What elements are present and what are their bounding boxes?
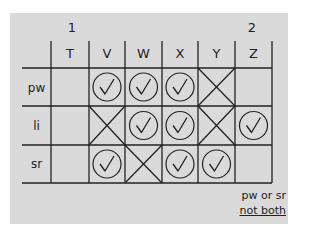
group-label-1: 1 <box>62 20 82 36</box>
check-icon <box>130 112 158 140</box>
check-icon <box>203 150 231 178</box>
note-line-2: not both <box>222 203 286 219</box>
check-icon <box>247 118 261 133</box>
check-icon <box>166 73 194 101</box>
check-icon <box>173 156 187 171</box>
check-icon <box>173 79 187 94</box>
check-icon <box>173 118 187 133</box>
note-line-1: pw or sr <box>222 188 286 204</box>
check-icon <box>240 112 268 140</box>
row-label-li: li <box>22 118 51 134</box>
column-header-t: T <box>51 46 89 62</box>
check-icon <box>93 150 121 178</box>
column-header-z: Z <box>235 46 272 62</box>
check-icon <box>100 79 114 94</box>
column-header-w: W <box>125 46 162 62</box>
check-icon <box>166 112 194 140</box>
check-icon <box>166 150 194 178</box>
column-header-v: V <box>89 46 125 62</box>
check-icon <box>100 156 114 171</box>
column-header-y: Y <box>198 46 235 62</box>
check-icon <box>137 118 151 133</box>
check-icon <box>210 156 224 171</box>
check-icon <box>93 73 121 101</box>
row-label-pw: pw <box>22 80 51 96</box>
check-icon <box>137 79 151 94</box>
check-icon <box>130 73 158 101</box>
row-label-sr: sr <box>22 156 51 172</box>
group-label-2: 2 <box>242 20 262 36</box>
column-header-x: X <box>162 46 198 62</box>
